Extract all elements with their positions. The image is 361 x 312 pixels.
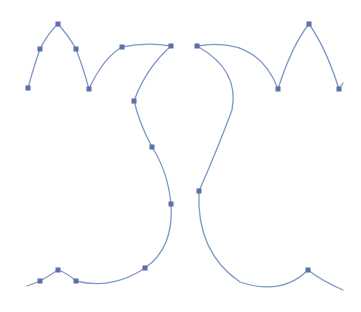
anchor-point-handle[interactable] — [38, 47, 43, 52]
anchor-point-handle[interactable] — [120, 45, 125, 50]
bezier-path-right-top-m-shape[interactable] — [197, 24, 343, 89]
anchor-point-handle[interactable] — [74, 279, 79, 284]
anchor-point-handle[interactable] — [87, 87, 92, 92]
anchors-layer — [26, 22, 342, 284]
anchor-point-handle[interactable] — [195, 44, 200, 49]
anchor-point-handle[interactable] — [56, 268, 61, 273]
anchor-point-handle[interactable] — [143, 266, 148, 271]
anchor-point-handle[interactable] — [307, 22, 312, 27]
anchor-point-handle[interactable] — [169, 44, 174, 49]
anchor-point-handle[interactable] — [337, 87, 342, 92]
anchor-point-handle[interactable] — [56, 22, 61, 27]
bezier-path-left-s-curve[interactable] — [76, 46, 171, 284]
vector-drawing-canvas — [0, 0, 361, 312]
anchor-point-handle[interactable] — [276, 87, 281, 92]
anchor-point-handle[interactable] — [38, 279, 43, 284]
bezier-path-left-top-m-shape[interactable] — [28, 24, 171, 89]
bezier-path-left-bottom-bump[interactable] — [27, 270, 76, 286]
anchor-point-handle[interactable] — [74, 47, 79, 52]
bezier-path-right-s-curve[interactable] — [197, 46, 343, 290]
anchor-point-handle[interactable] — [132, 99, 137, 104]
paths-layer — [27, 24, 343, 290]
anchor-point-handle[interactable] — [169, 202, 174, 207]
anchor-point-handle[interactable] — [150, 145, 155, 150]
anchor-point-handle[interactable] — [197, 189, 202, 194]
anchor-point-handle[interactable] — [26, 86, 31, 91]
anchor-point-handle[interactable] — [306, 268, 311, 273]
